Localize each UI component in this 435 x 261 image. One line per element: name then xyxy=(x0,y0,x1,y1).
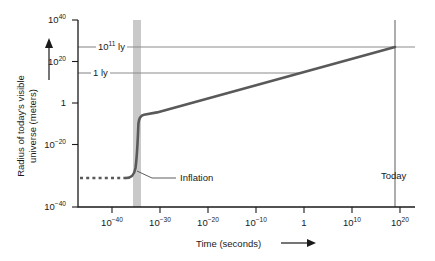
x-tick-label-6: 1020 xyxy=(391,218,409,228)
annotation-today: Today xyxy=(381,171,406,181)
reference-label-hubble-radius: 1011 ly xyxy=(96,42,127,52)
x-axis-arrow xyxy=(281,239,316,247)
x-tick-label-0: 10−40 xyxy=(101,218,123,228)
y-axis-title: Radius of today's visibleuniverse (meter… xyxy=(15,51,39,201)
y-axis-title-line2: universe (meters) xyxy=(27,51,39,201)
y-axis-title-line1: Radius of today's visible xyxy=(15,75,26,177)
y-axis-arrow xyxy=(43,38,55,80)
y-tick-label-4: 10−40 xyxy=(18,202,66,212)
annotation-inflation: Inflation xyxy=(180,173,213,183)
inflation-leader-line xyxy=(137,171,176,178)
x-tick-label-1: 10−30 xyxy=(149,218,171,228)
chart-figure: #axis-frame { fill: none; stroke: #1a1a1… xyxy=(0,0,435,261)
x-tick-label-2: 10−20 xyxy=(197,218,219,228)
x-tick-label-3: 10−10 xyxy=(245,218,267,228)
x-axis-ticks xyxy=(112,207,400,213)
x-tick-label-5: 1010 xyxy=(343,218,361,228)
x-axis-title: Time (seconds) xyxy=(196,238,261,249)
reference-label-one-light-year: 1 ly xyxy=(91,68,110,78)
y-tick-label-0: 1040 xyxy=(18,15,66,25)
inflation-band xyxy=(133,20,141,207)
y-axis-ticks xyxy=(72,20,78,207)
series-scale-factor xyxy=(126,47,395,178)
x-tick-label-4: 1 xyxy=(301,218,306,228)
